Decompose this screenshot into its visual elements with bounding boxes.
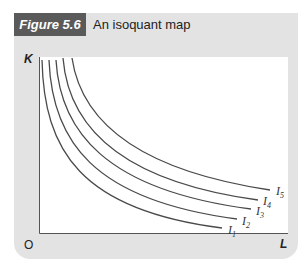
label-i2: I2 <box>241 214 250 230</box>
x-axis-label: L <box>280 237 287 251</box>
origin-label: O <box>24 238 33 252</box>
isoquant-i3 <box>56 60 251 209</box>
isoquant-i5 <box>72 58 270 190</box>
isoquant-i2 <box>49 60 237 219</box>
isoquant-i1 <box>42 60 222 228</box>
label-i5: I5 <box>275 184 284 200</box>
isoquant-i4 <box>63 58 258 200</box>
label-i1: I1 <box>227 223 236 239</box>
y-axis-label: K <box>24 52 33 66</box>
isoquant-chart: I1 I2 I3 I4 I5 <box>0 0 308 272</box>
label-i4: I4 <box>262 194 271 210</box>
